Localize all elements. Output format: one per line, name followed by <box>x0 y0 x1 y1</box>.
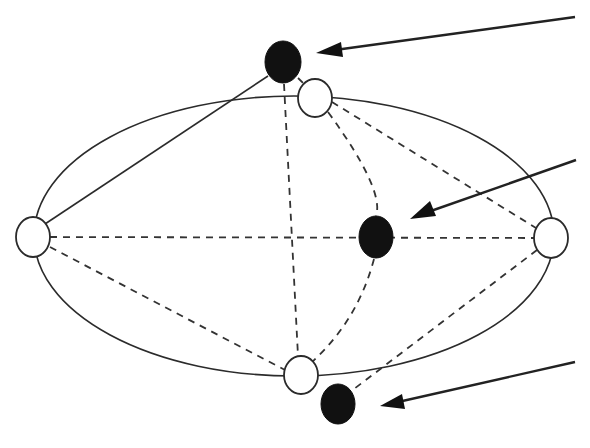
open-node-top[interactable] <box>298 79 332 117</box>
arrow-middle-shaft <box>428 160 576 212</box>
diagram-canvas <box>0 0 590 448</box>
edge-right-to-filled-bottom <box>350 250 537 392</box>
filled-node-bottom[interactable] <box>321 384 355 424</box>
arrow-bottom-shaft <box>398 362 575 402</box>
arrow-middle <box>410 160 576 219</box>
edge-filled-top-to-bottom <box>284 84 298 356</box>
arrow-top <box>316 17 575 57</box>
arrow-top-shaft <box>335 17 575 50</box>
edge-filled-top-to-open-top <box>298 78 304 84</box>
edge-arc-middle-to-bottom <box>312 259 374 362</box>
arrow-middle-head-icon <box>410 201 436 219</box>
open-node-bottom[interactable] <box>284 356 318 394</box>
edges <box>45 76 537 392</box>
edge-arc-top-to-middle <box>328 112 377 216</box>
edge-left-to-bottom <box>50 247 285 370</box>
edge-left-to-right <box>50 237 534 238</box>
open-node-left[interactable] <box>16 217 50 257</box>
open-nodes <box>16 79 568 394</box>
arrow-top-head-icon <box>316 42 343 57</box>
edge-left-to-filled-top <box>45 76 268 224</box>
filled-node-middle[interactable] <box>359 216 393 258</box>
arrow-bottom-head-icon <box>380 394 405 409</box>
orbit-ellipse <box>34 96 554 376</box>
open-node-right[interactable] <box>534 218 568 258</box>
arrow-bottom <box>380 362 575 409</box>
filled-node-top[interactable] <box>265 41 301 83</box>
